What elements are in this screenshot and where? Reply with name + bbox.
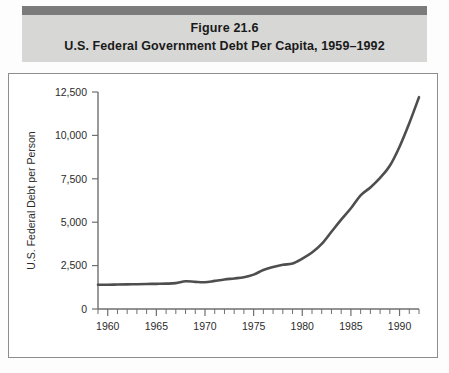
- x-tick-label: 1985: [339, 320, 363, 332]
- figure-number: Figure 21.6: [26, 21, 423, 36]
- y-tick-label: 5,000: [61, 216, 87, 228]
- line-chart: 02,5005,0007,50010,00012,500196019651970…: [9, 74, 437, 357]
- x-tick-label: 1970: [193, 320, 217, 332]
- y-tick-label: 0: [81, 303, 87, 315]
- y-axis-title: U.S. Federal Debt per Person: [25, 131, 37, 269]
- caption-top-bar: [22, 6, 427, 15]
- x-tick-label: 1990: [388, 320, 412, 332]
- plot-frame: 02,5005,0007,50010,00012,500196019651970…: [8, 73, 438, 358]
- y-tick-label: 12,500: [55, 86, 87, 98]
- figure-root: Figure 21.6 U.S. Federal Government Debt…: [0, 0, 449, 373]
- x-tick-label: 1980: [291, 320, 315, 332]
- x-tick-label: 1975: [242, 320, 266, 332]
- debt-per-capita-line: [98, 97, 419, 284]
- x-tick-label: 1965: [145, 320, 169, 332]
- y-tick-label: 7,500: [61, 173, 87, 185]
- x-tick-label: 1960: [96, 320, 120, 332]
- y-tick-label: 10,000: [55, 129, 87, 141]
- figure-caption-block: Figure 21.6 U.S. Federal Government Debt…: [22, 6, 427, 62]
- figure-title: U.S. Federal Government Debt Per Capita,…: [26, 38, 423, 54]
- caption-panel: Figure 21.6 U.S. Federal Government Debt…: [22, 15, 427, 62]
- y-tick-label: 2,500: [61, 259, 87, 271]
